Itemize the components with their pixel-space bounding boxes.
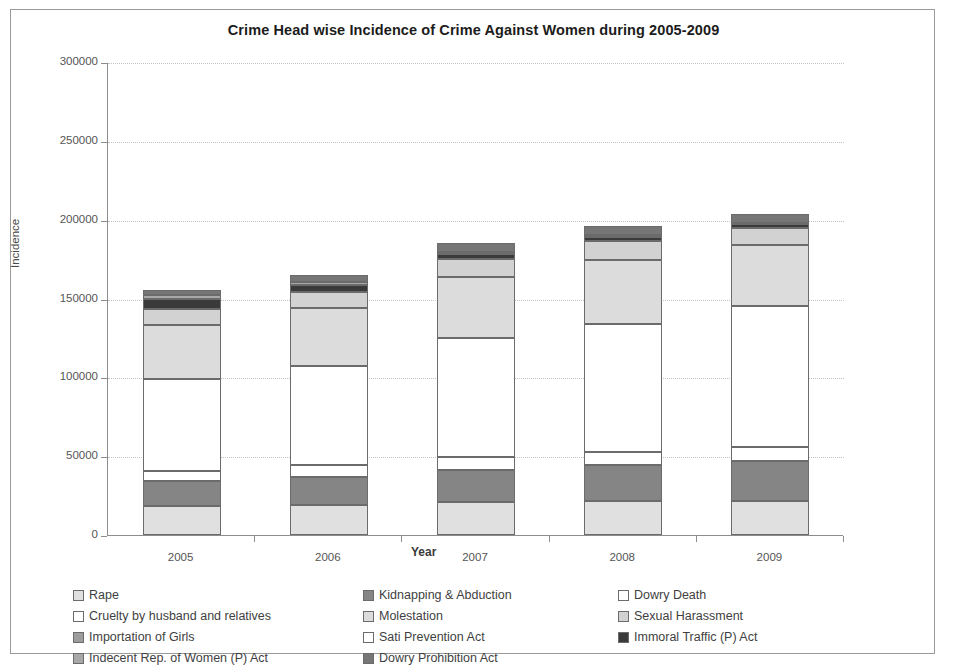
bar-segment[interactable] [143, 290, 221, 295]
bar-segment[interactable] [731, 228, 809, 245]
bar-segment[interactable] [731, 501, 809, 535]
legend-row: RapeKidnapping & AbductionDowry Death [73, 588, 933, 609]
legend-item[interactable]: Dowry Prohibition Act [363, 651, 498, 665]
bar-segment[interactable] [731, 214, 809, 223]
legend-item[interactable]: Kidnapping & Abduction [363, 588, 512, 602]
bar-segment[interactable] [584, 226, 662, 235]
legend-swatch-icon [618, 590, 629, 601]
legend-swatch-icon [618, 632, 629, 643]
bar-segment[interactable] [437, 259, 515, 276]
legend-swatch-icon [73, 653, 84, 664]
chart-legend: RapeKidnapping & AbductionDowry DeathCru… [73, 588, 933, 669]
bar-segment[interactable] [290, 477, 368, 504]
legend-swatch-icon [73, 632, 84, 643]
bar-segment[interactable] [437, 243, 515, 252]
legend-label: Cruelty by husband and relatives [89, 609, 271, 623]
y-axis-title: Incidence [9, 219, 21, 268]
bar-segment[interactable] [437, 502, 515, 535]
y-tick-mark [101, 536, 107, 537]
bar-segment[interactable] [584, 465, 662, 501]
bar-segment[interactable] [584, 241, 662, 260]
x-tick-mark [401, 536, 402, 542]
legend-swatch-icon [73, 590, 84, 601]
bar-segment[interactable] [143, 299, 221, 308]
bar-segment[interactable] [584, 237, 662, 241]
bar-segment[interactable] [290, 366, 368, 466]
legend-label: Molestation [379, 609, 443, 623]
bar-segment[interactable] [143, 325, 221, 379]
legend-item[interactable]: Importation of Girls [73, 630, 195, 644]
bar-segment[interactable] [143, 471, 221, 482]
legend-item[interactable]: Rape [73, 588, 119, 602]
bar-segment[interactable] [584, 260, 662, 324]
legend-item[interactable]: Sati Prevention Act [363, 630, 485, 644]
bar-segment[interactable] [143, 379, 221, 471]
x-tick-label: 2006 [268, 551, 388, 563]
legend-swatch-icon [618, 611, 629, 622]
legend-row: Importation of GirlsSati Prevention ActI… [73, 630, 933, 651]
bar-2007[interactable] [437, 243, 515, 535]
bar-segment[interactable] [731, 245, 809, 306]
bar-segment[interactable] [584, 452, 662, 465]
bar-segment[interactable] [290, 275, 368, 282]
bar-segment[interactable] [731, 461, 809, 502]
legend-item[interactable]: Immoral Traffic (P) Act [618, 630, 757, 644]
bar-segment[interactable] [437, 338, 515, 458]
bar-segment[interactable] [290, 308, 368, 366]
bar-2006[interactable] [290, 275, 368, 535]
bar-segment[interactable] [290, 292, 368, 308]
bar-segment[interactable] [290, 505, 368, 536]
bar-segment[interactable] [290, 282, 368, 284]
y-tick-label: 200000 [0, 213, 98, 225]
legend-item[interactable]: Sexual Harassment [618, 609, 743, 623]
bar-segment[interactable] [290, 465, 368, 477]
y-tick-label: 50000 [0, 449, 98, 461]
x-tick-mark [254, 536, 255, 542]
legend-item[interactable]: Molestation [363, 609, 443, 623]
bar-segment[interactable] [437, 277, 515, 338]
legend-item[interactable]: Cruelty by husband and relatives [73, 609, 271, 623]
bar-segment[interactable] [290, 285, 368, 292]
bar-segment[interactable] [143, 309, 221, 325]
bar-segment[interactable] [437, 470, 515, 502]
bar-segment[interactable] [437, 252, 515, 254]
legend-row: Indecent Rep. of Women (P) ActDowry Proh… [73, 651, 933, 669]
bar-segment[interactable] [584, 324, 662, 452]
legend-swatch-icon [363, 632, 374, 643]
y-tick-label: 0 [0, 528, 98, 540]
bar-segment[interactable] [731, 224, 809, 228]
bar-segment[interactable] [143, 506, 221, 535]
y-tick-label: 100000 [0, 370, 98, 382]
legend-swatch-icon [363, 590, 374, 601]
x-axis-title: Year [411, 545, 436, 559]
x-tick-mark [696, 536, 697, 542]
bar-segment[interactable] [143, 295, 221, 300]
x-tick-label: 2005 [121, 551, 241, 563]
legend-label: Indecent Rep. of Women (P) Act [89, 651, 268, 665]
legend-swatch-icon [363, 611, 374, 622]
bar-segment[interactable] [731, 447, 809, 460]
legend-label: Importation of Girls [89, 630, 195, 644]
bar-segment[interactable] [437, 457, 515, 470]
y-tick-label: 150000 [0, 292, 98, 304]
legend-label: Kidnapping & Abduction [379, 588, 512, 602]
x-tick-mark [549, 536, 550, 542]
plot-area: Incidence 050000100000150000200000250000… [11, 10, 936, 655]
legend-item[interactable]: Indecent Rep. of Women (P) Act [73, 651, 268, 665]
bar-segment[interactable] [437, 254, 515, 260]
chart-container: Crime Head wise Incidence of Crime Again… [10, 9, 935, 654]
legend-label: Dowry Prohibition Act [379, 651, 498, 665]
bar-segment[interactable] [584, 501, 662, 535]
y-tick-label: 300000 [0, 55, 98, 67]
bar-2008[interactable] [584, 226, 662, 535]
x-tick-label: 2009 [709, 551, 829, 563]
bar-2009[interactable] [731, 214, 809, 535]
legend-item[interactable]: Dowry Death [618, 588, 706, 602]
x-tick-mark [843, 536, 844, 542]
bar-segment[interactable] [143, 481, 221, 506]
bar-2005[interactable] [143, 290, 221, 535]
plot-canvas [107, 63, 843, 536]
bar-segment[interactable] [731, 306, 809, 447]
x-tick-label: 2008 [562, 551, 682, 563]
legend-row: Cruelty by husband and relativesMolestat… [73, 609, 933, 630]
